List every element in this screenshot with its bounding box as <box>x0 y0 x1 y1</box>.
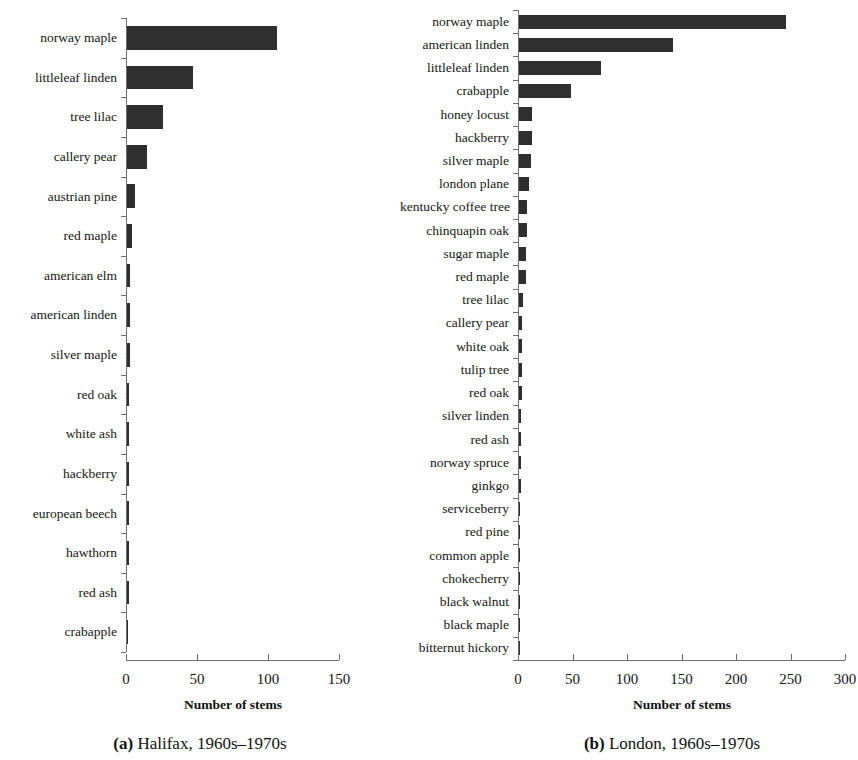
category-label: littleleaf linden <box>400 61 518 75</box>
category-label: red oak <box>0 388 126 402</box>
y-tick-mark <box>121 533 126 534</box>
bar <box>518 247 526 261</box>
bar-row: kentucky coffee tree <box>400 196 858 219</box>
bar-cell <box>518 358 858 381</box>
x-tick-mark <box>791 654 792 660</box>
category-label: crabapple <box>0 625 126 639</box>
bar-row: callery pear <box>0 137 400 177</box>
x-tick-mark <box>339 654 340 660</box>
bar-row: american linden <box>400 33 858 56</box>
caption-halifax: (a) Halifax, 1960s–1970s <box>113 735 286 752</box>
bar-cell <box>126 177 400 217</box>
x-tick-mark <box>197 654 198 660</box>
bar-cell <box>126 18 400 58</box>
y-tick-mark <box>513 242 518 243</box>
bar <box>126 184 135 208</box>
bar <box>126 26 277 50</box>
bar-row: ginkgo <box>400 474 858 497</box>
bar-row: crabapple <box>0 612 400 652</box>
bar-row: silver maple <box>400 149 858 172</box>
bar-row: tree lilac <box>0 97 400 137</box>
category-label: american linden <box>0 308 126 322</box>
x-tick-label: 50 <box>565 672 580 687</box>
category-label: bitternut hickory <box>400 641 518 655</box>
x-axis-halifax <box>126 660 339 661</box>
x-axis-london <box>518 660 845 661</box>
bar-cell <box>126 454 400 494</box>
bar-cell <box>126 216 400 256</box>
category-label: red pine <box>400 525 518 539</box>
bar <box>518 15 786 29</box>
bar <box>518 84 571 98</box>
x-axis-title-london: Number of stems <box>633 698 731 712</box>
bar-rows-london: norway mapleamerican lindenlittleleaf li… <box>400 10 858 660</box>
caption-london: (b) London, 1960s–1970s <box>584 735 760 752</box>
category-label: black maple <box>400 618 518 632</box>
bar-row: red ash <box>400 428 858 451</box>
category-label: chinquapin oak <box>400 224 518 238</box>
bar-cell <box>518 288 858 311</box>
category-label: silver maple <box>400 154 518 168</box>
bar-row: serviceberry <box>400 497 858 520</box>
y-tick-mark <box>513 335 518 336</box>
bar-cell <box>518 544 858 567</box>
bar <box>518 270 526 284</box>
bar-cell <box>518 428 858 451</box>
bar <box>518 223 527 237</box>
bar-row: hackberry <box>400 126 858 149</box>
bar-row: hawthorn <box>0 533 400 573</box>
y-tick-mark <box>121 375 126 376</box>
category-label: white ash <box>0 427 126 441</box>
bar-cell <box>518 10 858 33</box>
bar-row: american elm <box>0 256 400 296</box>
bar-cell <box>518 265 858 288</box>
x-tick-mark <box>627 654 628 660</box>
bar <box>518 61 601 75</box>
bar-cell <box>126 533 400 573</box>
category-label: american linden <box>400 38 518 52</box>
x-tick-mark <box>518 654 519 660</box>
y-tick-mark <box>121 335 126 336</box>
y-tick-mark <box>121 58 126 59</box>
figure-two-bar-charts: norway maplelittleleaf lindentree lilacc… <box>0 0 858 760</box>
bar <box>518 154 531 168</box>
bar-cell <box>126 335 400 375</box>
bar-row: crabapple <box>400 80 858 103</box>
bar-row: bitternut hickory <box>400 636 858 659</box>
bar-cell <box>518 590 858 613</box>
bar-cell <box>126 256 400 296</box>
bar <box>518 131 532 145</box>
y-tick-mark <box>121 256 126 257</box>
y-tick-mark <box>513 80 518 81</box>
category-label: callery pear <box>0 150 126 164</box>
category-label: sugar maple <box>400 247 518 261</box>
bar-cell <box>518 312 858 335</box>
bar-row: common apple <box>400 544 858 567</box>
bar-row: sugar maple <box>400 242 858 265</box>
category-label: hackberry <box>400 131 518 145</box>
bar-cell <box>518 149 858 172</box>
x-tick-label: 0 <box>514 672 522 687</box>
y-tick-mark <box>513 126 518 127</box>
y-tick-mark <box>121 216 126 217</box>
y-tick-mark <box>121 652 126 653</box>
y-tick-mark <box>513 544 518 545</box>
bar-row: tulip tree <box>400 358 858 381</box>
y-tick-mark <box>121 137 126 138</box>
category-label: littleleaf linden <box>0 71 126 85</box>
y-tick-mark <box>513 103 518 104</box>
y-tick-mark <box>513 149 518 150</box>
bar <box>126 105 163 129</box>
panel-halifax: norway maplelittleleaf lindentree lilacc… <box>0 0 400 760</box>
category-label: serviceberry <box>400 502 518 516</box>
plot-area-halifax: norway maplelittleleaf lindentree lilacc… <box>0 18 400 652</box>
bar-cell <box>518 613 858 636</box>
category-label: norway maple <box>400 15 518 29</box>
y-tick-mark <box>513 381 518 382</box>
y-tick-mark <box>513 614 518 615</box>
x-tick-mark <box>682 654 683 660</box>
category-label: black walnut <box>400 595 518 609</box>
bar-cell <box>518 474 858 497</box>
y-tick-mark <box>121 494 126 495</box>
bar-cell <box>518 451 858 474</box>
